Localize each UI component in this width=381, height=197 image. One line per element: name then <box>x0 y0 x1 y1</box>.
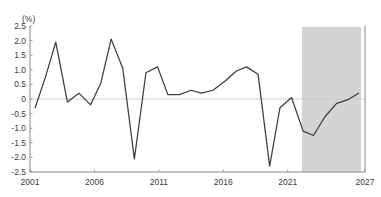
y-tick-label: 1.0 <box>14 65 26 75</box>
y-tick-label: 0 <box>21 94 26 104</box>
x-tick-label: 2016 <box>214 177 233 187</box>
y-tick-label: -0.5 <box>11 109 26 119</box>
y-tick-label: -1.0 <box>11 123 26 133</box>
x-tick-label: 2001 <box>21 177 40 187</box>
y-tick-label: -1.5 <box>11 138 26 148</box>
forecast-shaded-band <box>302 27 361 172</box>
forecast-band-rect <box>302 27 361 172</box>
y-axis-unit-label: (%) <box>22 14 35 24</box>
chart-canvas: 2.52.01.51.00.50-0.5-1.0-1.5-2.0-2.5 200… <box>0 0 381 197</box>
y-tick-label: 2.0 <box>14 36 26 46</box>
y-axis-tick-labels: 2.52.01.51.00.50-0.5-1.0-1.5-2.0-2.5 <box>11 21 32 177</box>
line-chart: 2.52.01.51.00.50-0.5-1.0-1.5-2.0-2.5 200… <box>0 0 381 197</box>
y-tick-label: 0.5 <box>14 79 26 89</box>
x-tick-label: 2027 <box>356 177 375 187</box>
x-tick-label: 2021 <box>278 177 297 187</box>
y-tick-label: -2.5 <box>11 167 26 177</box>
x-tick-label: 2011 <box>150 177 169 187</box>
y-tick-label: 1.5 <box>14 50 26 60</box>
y-tick-label: -2.0 <box>11 152 26 162</box>
x-tick-label: 2006 <box>85 177 104 187</box>
